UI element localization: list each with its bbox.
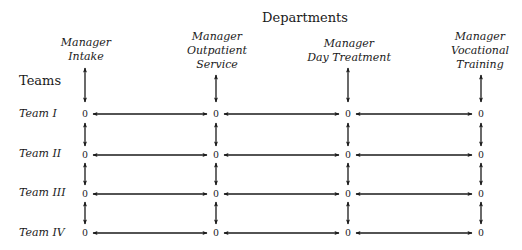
node-r2-c3: 0	[343, 148, 353, 160]
node-r4-c1: 0	[80, 226, 90, 238]
node-r1-c4: 0	[476, 107, 486, 119]
node-r4-c4: 0	[476, 226, 486, 238]
node-r4-c3: 0	[343, 226, 353, 238]
node-r1-c3: 0	[343, 107, 353, 119]
node-r1-c2: 0	[211, 107, 221, 119]
vertical-arrows	[85, 123, 481, 224]
node-r3-c1: 0	[80, 187, 90, 199]
node-r2-c4: 0	[476, 148, 486, 160]
node-r3-c3: 0	[343, 187, 353, 199]
connector-arrows	[0, 0, 522, 250]
node-r1-c1: 0	[80, 107, 90, 119]
horizontal-arrows	[93, 114, 472, 233]
node-r3-c2: 0	[211, 187, 221, 199]
node-r3-c4: 0	[476, 187, 486, 199]
node-r4-c2: 0	[211, 226, 221, 238]
node-r2-c1: 0	[80, 148, 90, 160]
node-r2-c2: 0	[211, 148, 221, 160]
